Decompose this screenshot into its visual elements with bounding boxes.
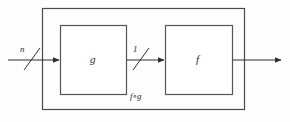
input-signal-label: n: [20, 45, 25, 54]
diagram-svg: [0, 0, 290, 122]
block-f-label: f: [196, 54, 199, 65]
diagram-canvas: g f n 1 f∘g: [0, 0, 290, 122]
block-g-label: g: [90, 54, 96, 65]
input-bus-slash: [24, 48, 40, 70]
composition-block-label: f∘g: [130, 92, 141, 101]
intermediate-signal-label: 1: [133, 45, 138, 54]
